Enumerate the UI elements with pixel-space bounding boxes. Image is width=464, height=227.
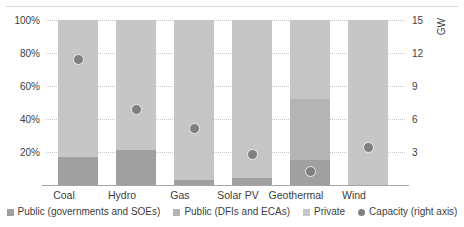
legend-item-capacity[interactable]: Capacity (right axis) bbox=[358, 206, 457, 218]
chart-legend: Public (governments and SOEs) Public (DF… bbox=[0, 206, 464, 218]
bar-segment bbox=[116, 20, 156, 150]
bar-segment bbox=[290, 20, 330, 99]
y-axis-right-tick-12: 12 bbox=[412, 49, 434, 59]
bar-solar-pv[interactable] bbox=[232, 20, 272, 185]
bar-segment bbox=[290, 99, 330, 160]
legend-item-private[interactable]: Private bbox=[303, 206, 345, 218]
capacity-marker bbox=[131, 104, 142, 115]
plot-area bbox=[46, 20, 405, 185]
capacity-marker bbox=[305, 166, 316, 177]
bar-segment bbox=[232, 178, 272, 185]
x-axis-label-wind: Wind bbox=[311, 189, 397, 201]
legend-circle-marker-icon bbox=[358, 209, 365, 216]
bar-segment bbox=[348, 20, 388, 185]
bar-segment bbox=[58, 20, 98, 157]
y-axis-left-tick-100: 100% bbox=[0, 16, 40, 26]
stacked-bar-chart: 100% 80% 60% 40% 20% 15 12 9 6 3 GW Coal… bbox=[0, 0, 464, 227]
y-axis-right-tick-6: 6 bbox=[412, 115, 434, 125]
legend-swatch-icon bbox=[173, 209, 180, 216]
capacity-marker bbox=[189, 123, 200, 134]
bar-wind[interactable] bbox=[348, 20, 388, 185]
y-axis-right-tick-9: 9 bbox=[412, 82, 434, 92]
figure-top-divider bbox=[6, 6, 458, 7]
bar-segment bbox=[116, 150, 156, 185]
capacity-marker bbox=[363, 142, 374, 153]
legend-label: Private bbox=[314, 206, 345, 218]
bar-gas[interactable] bbox=[174, 20, 214, 185]
legend-label: Capacity (right axis) bbox=[369, 206, 457, 218]
legend-item-public-dfis-ecas[interactable]: Public (DFIs and ECAs) bbox=[173, 206, 290, 218]
capacity-marker bbox=[247, 149, 258, 160]
capacity-marker bbox=[73, 54, 84, 65]
y-axis-right-title: GW bbox=[437, 18, 447, 35]
y-axis-left-tick-60: 60% bbox=[0, 82, 40, 92]
bar-geothermal[interactable] bbox=[290, 20, 330, 185]
y-axis-right-tick-3: 3 bbox=[412, 148, 434, 158]
x-axis-line bbox=[42, 185, 409, 186]
y-axis-left-tick-40: 40% bbox=[0, 115, 40, 125]
bar-coal[interactable] bbox=[58, 20, 98, 185]
legend-label: Public (DFIs and ECAs) bbox=[184, 206, 290, 218]
legend-swatch-icon bbox=[303, 209, 310, 216]
y-axis-left-tick-20: 20% bbox=[0, 148, 40, 158]
legend-swatch-icon bbox=[7, 209, 14, 216]
y-axis-right-tick-15: 15 bbox=[412, 16, 434, 26]
bar-segment bbox=[174, 20, 214, 180]
bar-hydro[interactable] bbox=[116, 20, 156, 185]
legend-item-public-governments-soes[interactable]: Public (governments and SOEs) bbox=[7, 206, 161, 218]
y-axis-left-tick-80: 80% bbox=[0, 49, 40, 59]
legend-label: Public (governments and SOEs) bbox=[18, 206, 161, 218]
bar-segment bbox=[58, 157, 98, 185]
